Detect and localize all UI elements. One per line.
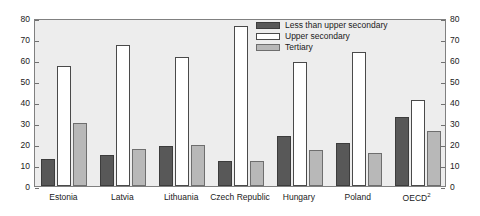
y-tick-label: 70: [21, 36, 30, 45]
y-tick-label: 0: [450, 183, 455, 192]
y-tick-label: 70: [450, 36, 459, 45]
bar: [427, 131, 441, 186]
y-tick-label: 60: [21, 57, 30, 66]
bar: [309, 150, 323, 186]
bar: [395, 117, 409, 186]
right-y-axis-labels: 01020304050607080: [450, 0, 476, 216]
legend-swatch: [256, 44, 280, 51]
bar: [73, 123, 87, 186]
legend-swatch: [256, 33, 280, 40]
y-tick-label: 20: [450, 141, 459, 150]
bar-group: [395, 20, 441, 186]
bar: [132, 149, 146, 186]
legend-item: Tertiary: [256, 42, 388, 52]
bar: [159, 146, 173, 186]
bar: [57, 66, 71, 186]
y-tick-label: 10: [450, 162, 459, 171]
bar: [411, 100, 425, 186]
bar: [191, 145, 205, 186]
bar: [218, 161, 232, 186]
y-tick-label: 80: [21, 15, 30, 24]
bar: [116, 45, 130, 186]
y-tick-label: 0: [25, 183, 30, 192]
x-tick-label: Lithuania: [164, 192, 199, 202]
bar: [336, 143, 350, 186]
bar: [234, 26, 248, 186]
bar: [368, 153, 382, 186]
tick-mark: [441, 188, 445, 189]
bar: [175, 57, 189, 186]
x-tick-label: Czech Republic: [210, 192, 270, 202]
tick-mark: [35, 188, 39, 189]
y-tick-label: 10: [21, 162, 30, 171]
legend-label: Upper secondary: [285, 32, 350, 41]
bar: [293, 62, 307, 186]
legend-swatch: [256, 22, 280, 29]
left-y-axis-labels: 01020304050607080: [4, 0, 30, 216]
x-tick-label: Hungary: [283, 192, 315, 202]
x-tick-label: Latvia: [111, 192, 134, 202]
legend-item: Less than upper secondary: [256, 20, 388, 30]
bar-group: [100, 20, 146, 186]
legend-label: Less than upper secondary: [285, 21, 388, 30]
legend-label: Tertiary: [285, 43, 313, 52]
y-tick-label: 80: [450, 15, 459, 24]
bar-group: [159, 20, 205, 186]
y-tick-label: 20: [21, 141, 30, 150]
y-tick-label: 30: [21, 120, 30, 129]
bar: [352, 52, 366, 186]
bar: [277, 136, 291, 186]
y-tick-label: 60: [450, 57, 459, 66]
bar: [41, 159, 55, 186]
bar: [100, 155, 114, 187]
bar: [250, 161, 264, 186]
y-tick-label: 50: [21, 78, 30, 87]
y-tick-label: 30: [450, 120, 459, 129]
chart-figure: 01020304050607080 01020304050607080 Esto…: [0, 0, 480, 216]
y-tick-label: 50: [450, 78, 459, 87]
legend-item: Upper secondary: [256, 31, 388, 41]
chart-legend: Less than upper secondaryUpper secondary…: [254, 18, 391, 55]
x-tick-label: Poland: [344, 192, 370, 202]
y-tick-label: 40: [450, 99, 459, 108]
y-tick-label: 40: [21, 99, 30, 108]
x-tick-label: Estonia: [49, 192, 77, 202]
x-tick-label: OECD2: [403, 192, 431, 203]
bar-group: [41, 20, 87, 186]
footnote-marker: 2: [427, 192, 430, 198]
